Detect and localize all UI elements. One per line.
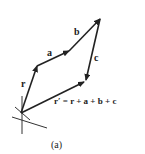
equation-label: r′ = r + a + b + c bbox=[54, 97, 116, 106]
vector-c bbox=[86, 19, 100, 80]
label-c: c bbox=[94, 53, 98, 63]
label-a: a bbox=[47, 48, 52, 58]
label-r: r bbox=[21, 79, 25, 89]
label-b: b bbox=[74, 27, 80, 37]
figure-caption: (a) bbox=[51, 140, 62, 150]
vector-diagram bbox=[0, 0, 145, 154]
origin-axes bbox=[12, 96, 47, 134]
vector-a bbox=[37, 51, 69, 66]
